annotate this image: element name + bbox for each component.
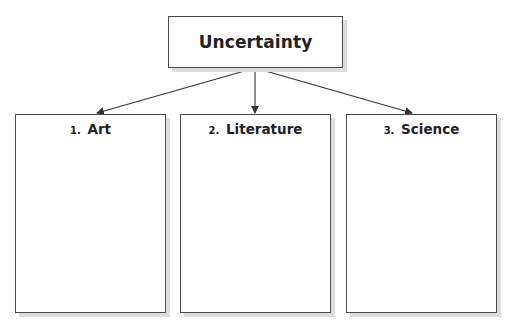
category-title: 3. Science [347, 121, 496, 137]
category-title: 1. Art [16, 121, 165, 137]
arrow-to-art [97, 68, 255, 113]
root-node: Uncertainty [168, 16, 343, 68]
category-title: 2. Literature [181, 121, 330, 137]
category-box-art: 1. Art [15, 114, 166, 313]
category-label: Science [401, 121, 459, 137]
category-box-literature: 2. Literature [180, 114, 331, 313]
category-label: Art [87, 121, 111, 137]
root-node-label: Uncertainty [199, 32, 313, 52]
category-label: Literature [226, 121, 303, 137]
arrow-to-science [255, 68, 412, 113]
category-number: 1. [70, 125, 81, 136]
category-number: 3. [384, 125, 395, 136]
category-number: 2. [209, 125, 220, 136]
category-box-science: 3. Science [346, 114, 497, 313]
